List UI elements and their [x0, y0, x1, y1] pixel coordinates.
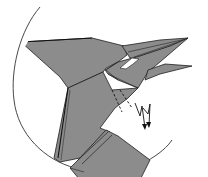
- sink-arrow: [135, 103, 151, 130]
- origami-diagram: [0, 0, 208, 177]
- crest: [21, 38, 127, 88]
